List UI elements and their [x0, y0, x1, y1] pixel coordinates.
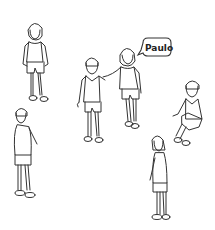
speech-bubble: Paulo [138, 38, 173, 56]
figure-girl-speaker [103, 48, 141, 128]
playground-illustration: Paulo [0, 0, 215, 230]
figure-boy-bottom-left [14, 109, 37, 198]
figure-girl-top-left [23, 23, 48, 101]
figure-boy-center [77, 58, 105, 143]
speech-bubble-text: Paulo [145, 43, 173, 53]
figure-girl-bottom-right [150, 136, 170, 220]
figure-child-sitting-right [173, 81, 202, 146]
